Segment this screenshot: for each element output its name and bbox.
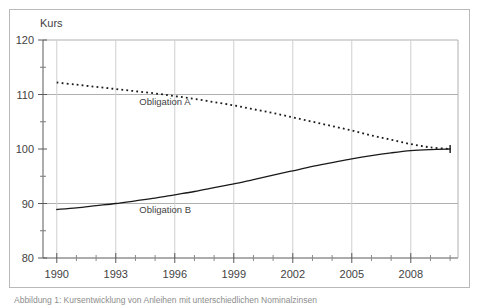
x-tick-label-2008: 2008 bbox=[399, 268, 423, 280]
x-tick-label-1999: 1999 bbox=[222, 268, 246, 280]
y-tick-label-90: 90 bbox=[22, 198, 34, 210]
y-tick-label-120: 120 bbox=[16, 34, 34, 46]
y-axis-title: Kurs bbox=[40, 17, 63, 29]
x-tick-label-2005: 2005 bbox=[340, 268, 364, 280]
x-axis-tick-labels: 1990199319961999200220052008 bbox=[45, 268, 424, 280]
figure-caption: Abbildung 1: Kursentwicklung von Anleihe… bbox=[14, 295, 464, 305]
x-tick-label-1996: 1996 bbox=[163, 268, 187, 280]
y-axis-tick-labels: 8090100110120 bbox=[16, 34, 34, 264]
price-convergence-chart: 8090100110120 19901993199619992002200520… bbox=[0, 0, 480, 306]
y-tick-label-100: 100 bbox=[16, 143, 34, 155]
plot-area-background bbox=[43, 40, 458, 258]
figure-container: 8090100110120 19901993199619992002200520… bbox=[0, 0, 480, 306]
series-label-obligation-a: Obligation A bbox=[139, 96, 191, 107]
x-tick-label-2002: 2002 bbox=[281, 268, 305, 280]
x-tick-label-1990: 1990 bbox=[45, 268, 69, 280]
series-label-obligation-b: Obligation B bbox=[139, 204, 191, 215]
x-tick-label-1993: 1993 bbox=[104, 268, 128, 280]
y-tick-label-110: 110 bbox=[16, 89, 34, 101]
y-tick-label-80: 80 bbox=[22, 252, 34, 264]
